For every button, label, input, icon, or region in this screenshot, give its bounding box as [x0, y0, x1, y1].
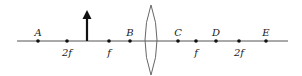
label-2f-right: 2f — [233, 47, 246, 58]
point-C — [176, 39, 180, 43]
label-D: D — [211, 27, 220, 38]
label-E: E — [261, 27, 270, 38]
arrow-head-icon — [83, 10, 92, 19]
label-f-left: f — [106, 47, 113, 58]
point-f-right — [194, 39, 198, 43]
label-C: C — [174, 27, 182, 38]
point-2f-right — [237, 39, 241, 43]
point-A — [36, 39, 40, 43]
lens-diagram: A B C D E 2f f f 2f — [0, 0, 302, 76]
point-2f-left — [65, 39, 69, 43]
label-B: B — [125, 27, 133, 38]
point-B — [128, 39, 132, 43]
converging-lens — [145, 5, 157, 75]
object-arrow — [83, 10, 92, 41]
point-E — [264, 39, 268, 43]
label-2f-left: 2f — [61, 47, 74, 58]
point-D — [214, 39, 218, 43]
label-f-right: f — [193, 47, 200, 58]
label-A: A — [33, 27, 41, 38]
point-f-left — [107, 39, 111, 43]
